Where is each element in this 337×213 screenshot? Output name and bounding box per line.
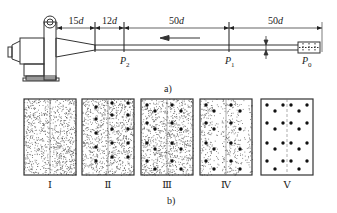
particle-dot bbox=[238, 167, 241, 170]
particle-dot bbox=[153, 167, 156, 170]
panel-label: Ⅲ bbox=[162, 179, 172, 190]
particle-dot bbox=[265, 159, 268, 162]
particle-dot bbox=[94, 131, 97, 134]
particle-dot bbox=[153, 147, 156, 150]
panel-3: Ⅲ bbox=[141, 99, 194, 190]
particle-dot bbox=[179, 109, 182, 112]
particle-dot bbox=[110, 101, 113, 104]
svg-text:50d: 50d bbox=[268, 15, 284, 26]
particle-dot bbox=[281, 121, 284, 124]
particle-dot bbox=[94, 145, 97, 148]
particle-dot bbox=[289, 121, 292, 124]
particle-dot bbox=[212, 147, 215, 150]
particle-dot bbox=[289, 103, 292, 106]
particle-dot bbox=[126, 113, 129, 116]
panel-label: Ⅱ bbox=[105, 179, 112, 190]
particle-dot bbox=[170, 159, 173, 162]
particle-dot bbox=[265, 103, 268, 106]
particle-dot bbox=[94, 159, 97, 162]
particle-dot bbox=[305, 141, 308, 144]
particle-dot bbox=[305, 159, 308, 162]
particle-dot bbox=[145, 159, 148, 162]
panel-1: Ⅰ bbox=[24, 99, 77, 190]
particle-dot bbox=[212, 127, 215, 130]
dimension-0: 15d bbox=[57, 15, 95, 52]
particle-dot bbox=[229, 103, 232, 106]
particle-dot bbox=[238, 109, 241, 112]
particle-dot bbox=[179, 147, 182, 150]
particle-dot bbox=[110, 113, 113, 116]
particle-dot bbox=[229, 121, 232, 124]
particle-dot bbox=[212, 109, 215, 112]
dimension-lines: 15d12d50d50d bbox=[57, 15, 322, 52]
particle-dot bbox=[126, 101, 129, 104]
caption-b: b) bbox=[167, 195, 175, 207]
svg-text:50d: 50d bbox=[169, 15, 185, 26]
point-label: P1 bbox=[224, 55, 235, 69]
panel-5: Ⅴ bbox=[261, 99, 313, 190]
particle-dot bbox=[305, 103, 308, 106]
particle-dot bbox=[297, 147, 300, 150]
particle-dot bbox=[305, 121, 308, 124]
particle-dot bbox=[179, 167, 182, 170]
flow-arrow-icon bbox=[160, 36, 200, 41]
panel-label: Ⅰ bbox=[48, 179, 52, 190]
svg-text:12d: 12d bbox=[102, 15, 118, 26]
particle-dot bbox=[204, 159, 207, 162]
panel-label: Ⅴ bbox=[282, 179, 291, 190]
particle-dot bbox=[145, 103, 148, 106]
dimension-2: 50d bbox=[124, 15, 229, 52]
particle-dot bbox=[204, 121, 207, 124]
particle-dot bbox=[126, 127, 129, 130]
particle-dot bbox=[297, 109, 300, 112]
particle-dot bbox=[229, 141, 232, 144]
particle-dot bbox=[153, 127, 156, 130]
particle-dot bbox=[204, 103, 207, 106]
point-label: P0 bbox=[301, 55, 312, 69]
particle-dot bbox=[229, 159, 232, 162]
particle-dot bbox=[238, 127, 241, 130]
particle-dot bbox=[265, 121, 268, 124]
particle-dot bbox=[179, 127, 182, 130]
particle-dot bbox=[204, 141, 207, 144]
particle-dot bbox=[126, 141, 129, 144]
particle-dot bbox=[273, 147, 276, 150]
measure-points: P2P1P0 bbox=[119, 55, 312, 69]
particle-dot bbox=[110, 155, 113, 158]
particle-dot bbox=[281, 159, 284, 162]
particle-dot bbox=[153, 109, 156, 112]
particle-dot bbox=[273, 127, 276, 130]
panel-label: Ⅳ bbox=[221, 179, 232, 190]
particle-dot bbox=[212, 167, 215, 170]
cross-section-panels: ⅠⅡⅢⅣⅤ bbox=[24, 99, 313, 190]
particle-dot bbox=[273, 109, 276, 112]
diameter-marker bbox=[264, 36, 268, 59]
particle-dot bbox=[297, 167, 300, 170]
panel-4: Ⅳ bbox=[200, 99, 253, 190]
particle-dot bbox=[94, 105, 97, 108]
panel-2: Ⅱ bbox=[82, 99, 135, 190]
dimension-1: 12d bbox=[95, 15, 124, 52]
particle-dot bbox=[273, 167, 276, 170]
particle-dot bbox=[289, 141, 292, 144]
particle-dot bbox=[289, 159, 292, 162]
particle-dot bbox=[110, 127, 113, 130]
dimension-3: 50d bbox=[229, 15, 322, 52]
particle-dot bbox=[281, 103, 284, 106]
particle-dot bbox=[170, 121, 173, 124]
particle-dot bbox=[265, 141, 268, 144]
particle-dot bbox=[170, 103, 173, 106]
particle-dot bbox=[297, 127, 300, 130]
particle-dot bbox=[110, 141, 113, 144]
particle-dot bbox=[145, 121, 148, 124]
caption-a: a) bbox=[164, 83, 172, 95]
particle-dot bbox=[238, 147, 241, 150]
particle-dot bbox=[281, 141, 284, 144]
particle-dot bbox=[145, 141, 148, 144]
particle-dot bbox=[126, 155, 129, 158]
svg-text:15d: 15d bbox=[69, 15, 85, 26]
particle-dot bbox=[170, 141, 173, 144]
figure: 15d12d50d50d P2P1P0 a) ⅠⅡⅢⅣⅤ b) bbox=[0, 0, 337, 213]
point-label: P2 bbox=[119, 55, 130, 69]
particle-dot bbox=[94, 117, 97, 120]
